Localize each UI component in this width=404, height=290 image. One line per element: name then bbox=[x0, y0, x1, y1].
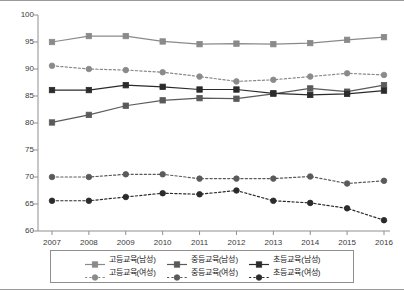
legend-key-marker bbox=[174, 262, 179, 267]
data-point-marker bbox=[123, 33, 128, 38]
x-tick-label: 2008 bbox=[80, 238, 98, 247]
legend-label: 고등교육(여성) bbox=[109, 268, 156, 277]
data-point-marker bbox=[86, 87, 91, 92]
data-point-marker bbox=[308, 92, 313, 97]
data-point-marker bbox=[123, 172, 129, 178]
legend-label: 초등교육(남성) bbox=[273, 255, 320, 264]
series-line bbox=[52, 66, 384, 82]
x-tick-label: 2016 bbox=[375, 238, 393, 247]
data-point-marker bbox=[344, 71, 350, 77]
series-5 bbox=[49, 188, 387, 223]
legend-key-marker bbox=[174, 275, 180, 281]
x-tick-label: 2011 bbox=[191, 238, 208, 247]
data-point-marker bbox=[86, 174, 92, 180]
plot-area bbox=[38, 15, 390, 231]
data-point-marker bbox=[381, 88, 386, 93]
data-point-marker bbox=[307, 74, 313, 80]
x-tick-label: 2015 bbox=[338, 238, 356, 247]
data-point-marker bbox=[49, 120, 54, 125]
series-2 bbox=[49, 83, 386, 98]
data-point-marker bbox=[344, 206, 350, 212]
x-tick-label: 2014 bbox=[301, 238, 319, 247]
series-line bbox=[52, 85, 384, 122]
data-point-marker bbox=[344, 91, 349, 96]
y-tick-label: 95 bbox=[25, 38, 34, 46]
data-point-marker bbox=[49, 198, 55, 204]
data-point-marker bbox=[234, 96, 239, 101]
chart-legend: 고등교육(남성)중등교육(남성)초등교육(남성)고등교육(여성)중등교육(여성)… bbox=[50, 250, 354, 283]
x-axis-tick-labels: 2007200820092010201120122013201420152016 bbox=[38, 235, 390, 249]
legend-label: 중등교육(남성) bbox=[191, 255, 238, 264]
data-point-marker bbox=[308, 40, 313, 45]
data-point-marker bbox=[381, 72, 387, 78]
y-tick-label: 60 bbox=[25, 227, 34, 235]
data-point-marker bbox=[307, 200, 313, 206]
y-tick-label: 100 bbox=[21, 11, 34, 19]
legend-key-icon bbox=[166, 255, 188, 264]
data-point-marker bbox=[49, 174, 55, 180]
legend-key-marker bbox=[92, 275, 98, 281]
data-point-marker bbox=[197, 95, 202, 100]
legend-key-marker bbox=[256, 275, 262, 281]
data-point-marker bbox=[197, 74, 203, 80]
data-point-marker bbox=[160, 84, 165, 89]
data-point-marker bbox=[271, 41, 276, 46]
data-point-marker bbox=[381, 83, 386, 88]
legend-item[interactable]: 고등교육(여성) bbox=[84, 268, 156, 277]
data-point-marker bbox=[123, 83, 128, 88]
y-axis-tick-labels: 6065707580859095100 bbox=[0, 1, 34, 231]
data-point-marker bbox=[160, 190, 166, 196]
x-tick-label: 2009 bbox=[117, 238, 135, 247]
legend-item[interactable]: 고등교육(남성) bbox=[84, 255, 156, 264]
data-point-marker bbox=[234, 79, 240, 85]
series-4 bbox=[49, 172, 387, 187]
data-point-marker bbox=[123, 103, 128, 108]
data-point-marker bbox=[234, 188, 240, 194]
data-point-marker bbox=[160, 39, 165, 44]
legend-item[interactable]: 중등교육(남성) bbox=[166, 255, 238, 264]
data-point-marker bbox=[344, 37, 349, 42]
data-point-marker bbox=[86, 198, 92, 204]
data-point-marker bbox=[344, 181, 350, 187]
legend-label: 고등교육(남성) bbox=[109, 255, 156, 264]
data-point-marker bbox=[160, 69, 166, 75]
data-point-marker bbox=[49, 87, 54, 92]
legend-label: 중등교육(여성) bbox=[191, 268, 238, 277]
data-point-marker bbox=[123, 194, 129, 200]
legend-item[interactable]: 초등교육(여성) bbox=[248, 268, 320, 277]
data-point-marker bbox=[86, 66, 92, 72]
plot-svg bbox=[38, 15, 390, 231]
legend-row: 고등교육(여성)중등교육(여성)초등교육(여성) bbox=[53, 266, 351, 279]
line-chart-figure: 6065707580859095100 20072008200920102011… bbox=[0, 0, 404, 290]
data-point-marker bbox=[197, 176, 203, 182]
legend-key-marker bbox=[92, 262, 97, 267]
series-line bbox=[52, 174, 384, 183]
y-tick-label: 90 bbox=[25, 65, 34, 73]
legend-row: 고등교육(남성)중등교육(남성)초등교육(남성) bbox=[53, 253, 351, 266]
data-point-marker bbox=[86, 112, 91, 117]
legend-key-icon bbox=[84, 255, 106, 264]
data-point-marker bbox=[197, 87, 202, 92]
x-tick-label: 2012 bbox=[228, 238, 246, 247]
legend-label: 초등교육(여성) bbox=[273, 268, 320, 277]
data-point-marker bbox=[160, 172, 166, 178]
legend-item[interactable]: 중등교육(여성) bbox=[166, 268, 238, 277]
data-point-marker bbox=[160, 98, 165, 103]
legend-item[interactable]: 초등교육(남성) bbox=[248, 255, 320, 264]
data-point-marker bbox=[234, 87, 239, 92]
legend-key-icon bbox=[166, 268, 188, 277]
series-3 bbox=[49, 63, 387, 84]
legend-key-icon bbox=[248, 268, 270, 277]
data-point-marker bbox=[271, 198, 277, 204]
series-line bbox=[52, 36, 384, 44]
data-point-marker bbox=[49, 39, 54, 44]
data-point-marker bbox=[271, 77, 277, 83]
legend-key-icon bbox=[84, 268, 106, 277]
data-point-marker bbox=[307, 174, 313, 180]
series-0 bbox=[49, 33, 386, 47]
data-point-marker bbox=[197, 191, 203, 197]
data-point-marker bbox=[381, 217, 387, 223]
data-point-marker bbox=[234, 41, 239, 46]
data-point-marker bbox=[234, 176, 240, 182]
legend-key-icon bbox=[248, 255, 270, 264]
